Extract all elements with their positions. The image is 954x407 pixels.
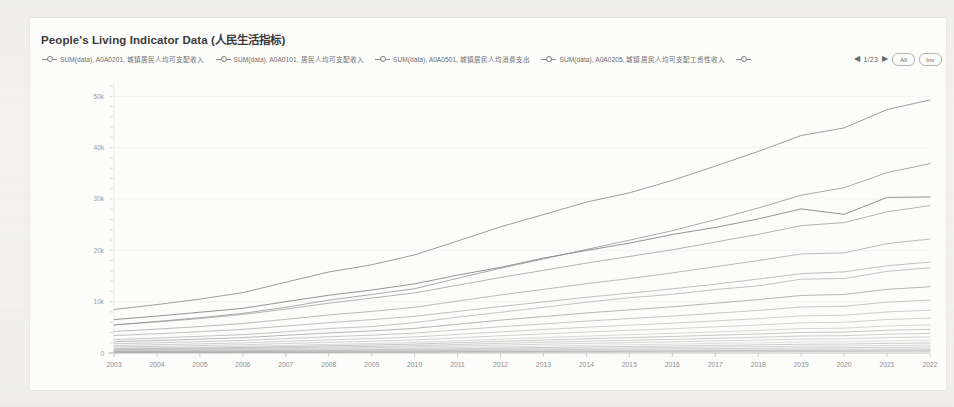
legend-item-label: SUM(data), A0A0201, 城镇居民人均可支配收入 (60, 55, 205, 64)
screenshot-root: People's Living Indicator Data (人民生活指标) … (0, 0, 954, 407)
chart-legend: SUM(data), A0A0201, 城镇居民人均可支配收入 SUM(data… (42, 51, 942, 67)
chart-line-series[interactable] (114, 300, 930, 344)
pager-count: 1/23 (864, 56, 878, 63)
x-axis-tick-label: 2014 (579, 361, 594, 368)
x-axis-tick-label: 2003 (106, 361, 121, 368)
x-axis-tick-label: 2010 (407, 361, 422, 368)
legend-item-label: SUM(data), A0A0101, 居民人均可支配收入 (234, 55, 364, 64)
chart-line-series[interactable] (114, 239, 930, 331)
legend-all-button[interactable]: All (892, 53, 915, 66)
x-axis-tick-label: 2012 (493, 361, 508, 368)
x-axis-tick-label: 2005 (192, 361, 207, 368)
legend-item-1[interactable]: SUM(data), A0A0101, 居民人均可支配收入 (216, 55, 364, 64)
y-axis-tick-label: 0 (100, 350, 104, 357)
x-axis-tick-label: 2022 (922, 361, 937, 368)
chart-line-series[interactable] (114, 100, 930, 310)
x-axis-tick-label: 2008 (321, 361, 336, 368)
legend-inv-button[interactable]: Inv (919, 53, 942, 66)
chart-card: People's Living Indicator Data (人民生活指标) … (30, 18, 946, 390)
chart-line-series[interactable] (114, 262, 930, 335)
legend-item-label: SUM(data), A0A0501, 城镇居民人均消费支出 (393, 55, 530, 64)
y-axis-tick-label: 10k (94, 298, 105, 305)
y-axis-tick-label: 20k (94, 247, 105, 254)
chart-svg: 010k20k30k40k50k200320042005200620072008… (30, 70, 946, 390)
legend-pager: ◀ 1/23 ▶ All Inv (854, 53, 942, 66)
x-axis-tick-label: 2017 (708, 361, 723, 368)
x-axis-tick-label: 2009 (364, 361, 379, 368)
x-axis-tick-label: 2015 (622, 361, 637, 368)
x-axis-tick-label: 2018 (751, 361, 766, 368)
pager-prev-icon[interactable]: ◀ (854, 55, 860, 63)
x-axis-tick-label: 2016 (665, 361, 680, 368)
x-axis-tick-label: 2013 (536, 361, 551, 368)
line-circle-marker-icon (541, 55, 556, 63)
y-axis-tick-label: 50k (94, 93, 105, 100)
y-axis-tick-label: 30k (94, 195, 105, 202)
line-chart-plot[interactable]: 010k20k30k40k50k200320042005200620072008… (30, 70, 946, 390)
chart-line-series[interactable] (114, 197, 930, 320)
page-title: People's Living Indicator Data (人民生活指标) (41, 31, 286, 47)
line-circle-marker-icon-trailing (736, 55, 751, 63)
legend-item-3[interactable]: SUM(data), A0A0205, 城镇居民人均可支配工资性收入 (541, 55, 725, 64)
x-axis-tick-label: 2007 (278, 361, 293, 368)
chart-line-series[interactable] (114, 164, 930, 325)
x-axis-tick-label: 2006 (235, 361, 250, 368)
x-axis-tick-label: 2019 (794, 361, 809, 368)
x-axis-tick-label: 2020 (837, 361, 852, 368)
line-circle-marker-icon (42, 55, 57, 63)
line-circle-marker-icon (216, 55, 231, 63)
legend-item-2[interactable]: SUM(data), A0A0501, 城镇居民人均消费支出 (375, 55, 530, 64)
x-axis-tick-label: 2011 (450, 361, 465, 368)
legend-item-0[interactable]: SUM(data), A0A0201, 城镇居民人均可支配收入 (42, 55, 205, 64)
pager-next-icon[interactable]: ▶ (882, 55, 888, 63)
legend-item-label: SUM(data), A0A0205, 城镇居民人均可支配工资性收入 (559, 55, 725, 64)
y-axis-tick-label: 40k (94, 144, 105, 151)
x-axis-tick-label: 2021 (879, 361, 894, 368)
line-circle-marker-icon (375, 55, 390, 63)
x-axis-tick-label: 2004 (149, 361, 164, 368)
